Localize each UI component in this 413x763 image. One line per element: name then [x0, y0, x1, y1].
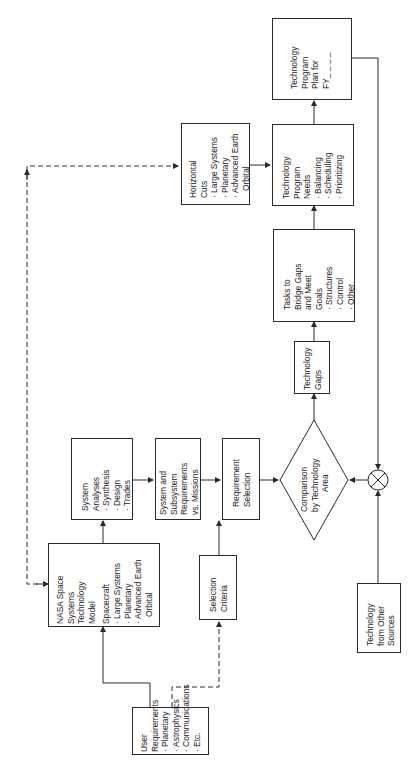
- box-nasa-model: NASA Space Systems Technology Model Spac…: [48, 543, 160, 627]
- label-system-subsystem: System and Subsystem Requirements vs. Mi…: [158, 463, 200, 515]
- connector-lines: [0, 0, 413, 763]
- label-comparison: Comparison by Technology Area: [299, 459, 331, 512]
- box-system-analyses: System Analyses Synthesis Design Trades: [71, 438, 133, 520]
- flow-diagram: User Requirements Planetary Astrophysics…: [0, 0, 413, 763]
- label-system-analyses: System Analyses Synthesis Design Trades: [80, 470, 133, 511]
- box-requirement-selection: Requirement Selection: [222, 438, 260, 520]
- box-technology-gaps: Technology Gaps: [294, 341, 330, 394]
- label-requirement-selection: Requirement Selection: [231, 459, 252, 507]
- label-program-needs: Technology Program Needs Balancing Sched…: [281, 152, 345, 199]
- label-tasks: Tasks to Bridge Gaps and Meet Goals Stru…: [282, 263, 356, 310]
- label-nasa-model: NASA Space Systems Technology Model Spac…: [55, 559, 154, 624]
- box-user-requirements: User Requirements Planetary Astrophysics…: [132, 707, 209, 755]
- box-horizontal-cuts: Horizontal Cuts Large Systems Planetary …: [181, 123, 250, 205]
- label-program-plan: Technology Program Plan for FY_ _ _ _: [289, 47, 331, 89]
- box-program-plan: Technology Program Plan for FY_ _ _ _: [272, 18, 352, 100]
- box-system-subsystem: System and Subsystem Requirements vs. Mi…: [155, 438, 201, 520]
- label-horizontal-cuts: Horizontal Cuts Large Systems Planetary …: [188, 133, 252, 198]
- label-user-requirements: User Requirements Planetary Astrophysics…: [139, 685, 203, 753]
- label-selection-criteria: Selection Criteria: [208, 578, 229, 612]
- box-program-needs: Technology Program Needs Balancing Sched…: [272, 124, 354, 206]
- label-technology-other-sources: Technology from Other Sources: [365, 604, 397, 646]
- box-tasks: Tasks to Bridge Gaps and Meet Goals Stru…: [273, 229, 355, 322]
- box-technology-other-sources: Technology from Other Sources: [357, 583, 401, 653]
- box-selection-criteria: Selection Criteria: [199, 555, 237, 620]
- label-technology-gaps: Technology Gaps: [302, 348, 323, 390]
